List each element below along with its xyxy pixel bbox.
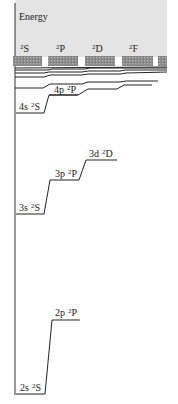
continuum-band — [13, 56, 167, 66]
svg-text:3p2P: 3p2P — [55, 168, 78, 179]
level-4d-line — [49, 85, 152, 95]
svg-text:2s2S: 2s2S — [20, 382, 41, 393]
svg-text:3s2S: 3s2S — [19, 202, 40, 213]
svg-text:4s2S: 4s2S — [19, 101, 40, 112]
ionization-region — [15, 0, 167, 57]
level-lines — [16, 95, 117, 394]
level-labels: 2s2S 2p2P 3s2S 3p2P 3d2D 4s2S 4p2P — [19, 84, 113, 393]
axis-label: Energy — [19, 11, 48, 22]
svg-text:2p2P: 2p2P — [55, 307, 78, 318]
svg-text:4p2P: 4p2P — [54, 84, 77, 95]
energy-level-diagram: Energy 2S 2P 2D 2F 2s2S 2p2P 3s2S — [0, 0, 178, 404]
svg-text:3d2D: 3d2D — [89, 148, 113, 159]
